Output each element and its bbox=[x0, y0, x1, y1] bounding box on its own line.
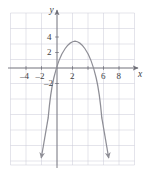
math-graph-figure: –4 –2 2 6 8 4 2 –2 y x bbox=[0, 0, 147, 174]
x-axis-label: x bbox=[138, 70, 142, 80]
y-tick-label-2: 2 bbox=[47, 48, 52, 57]
axis-lines bbox=[8, 10, 138, 168]
x-tick-label-8: 8 bbox=[117, 72, 122, 81]
coordinate-plane bbox=[0, 0, 147, 174]
x-tick-label-minus4: –4 bbox=[20, 72, 29, 81]
y-tick-label-minus2: –2 bbox=[44, 79, 53, 88]
parabola-curve bbox=[41, 41, 108, 158]
y-tick-label-4: 4 bbox=[47, 33, 52, 42]
grid-lines bbox=[11, 13, 135, 165]
x-tick-label-6: 6 bbox=[101, 72, 106, 81]
x-tick-label-2: 2 bbox=[70, 72, 75, 81]
y-axis-label: y bbox=[50, 6, 54, 16]
